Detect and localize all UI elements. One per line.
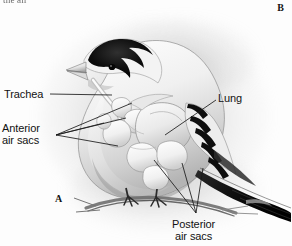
bird-illustration [0, 0, 292, 246]
label-lung: Lung [218, 92, 242, 104]
panel-letter-a: A [55, 193, 62, 204]
posterior-air-sac-lobe-lower [143, 166, 169, 190]
anterior-air-sac-lobe-small [97, 114, 111, 130]
bird-eye [109, 64, 116, 70]
bird-eye-highlight [110, 65, 112, 67]
label-anterior-air-sacs-line2: air sacs [2, 134, 40, 146]
perch-twig-1 [74, 198, 96, 206]
bird-leg-rear [156, 189, 157, 197]
label-anterior-air-sacs-line1: Anterior [2, 122, 40, 134]
panel-letter-b: B [277, 2, 284, 13]
label-posterior-air-sacs-line2: air sacs [172, 230, 215, 242]
label-anterior-air-sacs: Anterior air sacs [2, 122, 40, 146]
label-trachea: Trachea [4, 88, 43, 100]
perch-twig-2 [76, 210, 100, 212]
label-posterior-air-sacs: Posterior air sacs [172, 218, 215, 242]
bird-respiratory-anatomy-figure: the air [0, 0, 292, 246]
label-posterior-air-sacs-line1: Posterior [172, 218, 215, 230]
